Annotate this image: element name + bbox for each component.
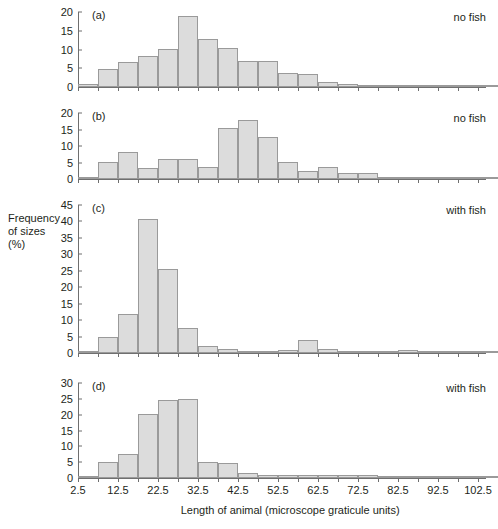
histogram-bar <box>418 476 438 478</box>
x-tick-mark <box>138 87 139 91</box>
histogram-bar <box>258 61 278 87</box>
histogram-bar <box>138 168 158 179</box>
histogram-bar <box>278 73 298 87</box>
panel-letter: (c) <box>92 203 105 214</box>
histogram-bar <box>418 177 438 179</box>
x-tick-mark <box>98 179 99 183</box>
histogram-bar <box>458 85 478 87</box>
x-tick-mark <box>218 87 219 91</box>
histogram-bar <box>398 476 418 478</box>
y-axis-line <box>78 205 79 353</box>
histogram-bar <box>418 351 438 353</box>
histogram-bar <box>378 85 398 87</box>
x-tick-mark <box>258 478 259 482</box>
x-tick-mark <box>98 87 99 91</box>
x-tick-mark <box>338 87 339 91</box>
x-tick-mark <box>378 353 379 357</box>
x-tick-mark <box>338 179 339 183</box>
histogram-bar <box>238 351 258 353</box>
y-tick-label: 20 <box>61 7 78 18</box>
x-tick-mark <box>358 478 359 482</box>
x-tick-mark <box>378 478 379 482</box>
histogram-bar <box>118 152 138 179</box>
x-tick-mark <box>438 478 439 482</box>
x-tick-mark <box>278 478 279 482</box>
y-tick-label: 30 <box>61 249 78 260</box>
histogram-bar <box>78 84 98 87</box>
histogram-bar <box>118 314 138 353</box>
x-tick-mark <box>418 478 419 482</box>
x-tick-mark <box>238 353 239 357</box>
histogram-bar <box>338 173 358 179</box>
histogram-bar <box>118 62 138 87</box>
y-tick-label: 5 <box>67 457 78 468</box>
x-axis-line <box>78 87 486 88</box>
x-axis-line <box>78 353 486 354</box>
histogram-bar <box>218 48 238 87</box>
x-tick-mark <box>238 179 239 183</box>
x-tick-mark <box>278 353 279 357</box>
y-axis-label: Frequency of sizes (%) <box>8 212 60 251</box>
x-tick-mark <box>218 179 219 183</box>
x-tick-mark <box>398 478 399 482</box>
histogram-bar <box>278 350 298 353</box>
panel-note: no fish <box>454 12 486 23</box>
histogram-bar <box>318 82 338 87</box>
histogram-bar <box>338 84 358 87</box>
histogram-bar <box>358 85 378 87</box>
x-tick-label: 62.5 <box>307 485 328 496</box>
histogram-bar <box>438 85 458 87</box>
histogram-bar <box>338 351 358 353</box>
x-tick-mark <box>78 179 79 183</box>
histogram-bar <box>198 39 218 87</box>
x-tick-mark <box>258 179 259 183</box>
x-tick-mark <box>298 87 299 91</box>
x-tick-mark <box>338 478 339 482</box>
histogram-bar <box>238 473 258 478</box>
histogram-bar <box>158 49 178 87</box>
panel-note: no fish <box>454 113 486 124</box>
plot-area-c: 051015202530354045(c)with fish <box>78 205 486 353</box>
y-tick-label: 0 <box>67 348 78 359</box>
x-tick-mark <box>458 179 459 183</box>
y-tick-label: 10 <box>61 315 78 326</box>
x-tick-mark <box>78 87 79 91</box>
y-tick-label: 15 <box>61 124 78 135</box>
x-tick-mark <box>78 353 79 357</box>
x-tick-label: 52.5 <box>267 485 288 496</box>
x-tick-mark <box>298 478 299 482</box>
x-tick-mark <box>138 179 139 183</box>
x-tick-mark <box>418 87 419 91</box>
histogram-bar <box>398 177 418 179</box>
histogram-bar <box>258 351 278 353</box>
histogram-bar <box>478 351 498 353</box>
y-tick-label: 10 <box>61 141 78 152</box>
histogram-bar <box>218 349 238 353</box>
x-tick-mark <box>178 179 179 183</box>
histogram-bar <box>78 351 98 353</box>
histogram-bar <box>398 350 418 353</box>
histogram-bar <box>298 74 318 87</box>
y-tick-label: 0 <box>67 82 78 93</box>
histogram-bar <box>458 177 478 179</box>
x-tick-mark <box>98 353 99 357</box>
histogram-bar <box>278 162 298 179</box>
y-tick-label: 5 <box>67 63 78 74</box>
histogram-bar <box>378 476 398 478</box>
histogram-bar <box>138 56 158 87</box>
histogram-bar <box>358 173 378 179</box>
histogram-bar <box>398 85 418 87</box>
y-tick-label: 10 <box>61 441 78 452</box>
x-tick-mark <box>478 478 479 482</box>
x-tick-mark <box>438 87 439 91</box>
y-tick-label: 20 <box>61 108 78 119</box>
x-tick-mark <box>478 87 479 91</box>
y-tick-label: 45 <box>61 200 78 211</box>
histogram-bar <box>218 463 238 478</box>
plot-area-a: 05101520(a)no fish <box>78 12 486 87</box>
histogram-bar <box>458 476 478 478</box>
x-tick-label: 32.5 <box>187 485 208 496</box>
histogram-bar <box>98 337 118 353</box>
y-tick-label: 15 <box>61 25 78 36</box>
